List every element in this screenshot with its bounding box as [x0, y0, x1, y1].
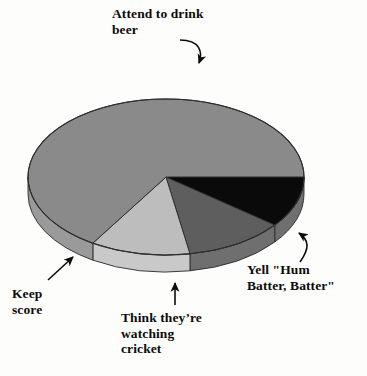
label-attend-to-drink-beer: Attend to drink beer	[112, 6, 272, 37]
label-yell-hum-batter: Yell "Hum Batter, Batter"	[247, 262, 365, 293]
pie-top-surface	[28, 99, 304, 255]
label-keep-score: Keep score	[12, 286, 90, 317]
label-think-watching-cricket: Think they’re watching cricket	[121, 310, 241, 357]
